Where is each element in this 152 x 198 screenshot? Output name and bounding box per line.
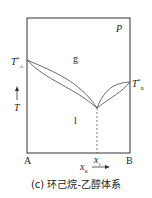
component-b-label: B: [126, 156, 133, 166]
azeotrope-composition-label: x1: [94, 155, 101, 167]
ta-boiling-point-label: T*A: [11, 56, 23, 69]
tb-boiling-point-label: T*B: [132, 78, 144, 91]
liquid-region-label: l: [74, 116, 77, 126]
gas-region-label: g: [73, 54, 78, 64]
dew-curve-left: [27, 60, 97, 108]
temperature-axis-label: T: [14, 103, 20, 113]
phase-diagram-canvas: [0, 0, 152, 198]
composition-arrow-head-icon: [105, 165, 110, 169]
temperature-arrow-head-icon: [15, 86, 19, 91]
figure-caption: (c) 环己烷-乙醇体系: [0, 176, 152, 191]
pressure-label: P: [116, 24, 122, 34]
mole-fraction-axis-label: xB: [80, 162, 88, 174]
component-a-label: A: [24, 156, 31, 166]
bubble-curve-left: [27, 60, 97, 108]
